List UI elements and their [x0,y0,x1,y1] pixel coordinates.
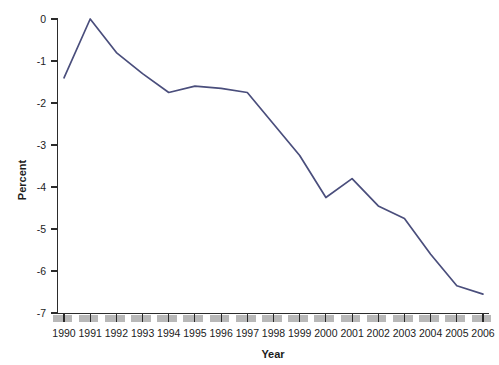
x-axis-block [288,315,308,322]
x-axis-block [419,315,439,322]
y-tick-label: -2 [37,97,46,109]
x-axis-block [236,315,256,322]
y-tick-label: -1 [37,55,46,67]
x-tick-label: 1996 [209,327,233,339]
chart-container: 0 -1 -2 -3 -4 -5 -6 -7 Percent 199019911… [0,0,499,365]
x-axis-block [393,315,413,322]
x-axis-block [157,315,177,322]
y-axis-title: Percent [16,159,28,200]
x-axis-block [367,315,387,322]
x-tick-label: 2001 [340,327,364,339]
x-tick-label: 1992 [105,327,129,339]
y-tick-label: 0 [40,13,46,25]
x-axis-block [53,315,73,322]
x-tick-label: 1998 [262,327,286,339]
x-tick-label: 1991 [79,327,103,339]
y-tick-label: -3 [37,139,46,151]
x-tick-label: 1997 [236,327,260,339]
x-tick-label: 2000 [314,327,338,339]
x-tick-label: 1999 [288,327,312,339]
x-axis-block [183,315,203,322]
x-tick-label: 1994 [157,327,181,339]
x-axis-block [472,315,492,322]
x-tick-label: 1993 [131,327,155,339]
x-tick-label: 2005 [445,327,469,339]
x-axis-block [105,315,125,322]
x-axis-block [131,315,151,322]
x-axis-title: Year [261,348,285,360]
x-axis-blocks [53,315,492,322]
x-tick-label: 2004 [419,327,443,339]
x-axis-block [262,315,282,322]
x-tick-label: 1995 [183,327,207,339]
x-tick-label: 1990 [52,327,76,339]
x-tick-label: 2002 [367,327,391,339]
x-axis-block [210,315,230,322]
x-axis-block [314,315,334,322]
x-tick-label: 2006 [471,327,495,339]
y-tick-label: -4 [37,181,46,193]
y-tick-label: -7 [37,307,46,319]
y-tick-label: -5 [37,223,46,235]
x-axis-block [341,315,361,322]
x-tick-label: 2003 [393,327,417,339]
line-chart: 0 -1 -2 -3 -4 -5 -6 -7 Percent 199019911… [0,0,499,365]
x-axis-tick-labels: 1990199119921993199419951996199719981999… [52,327,495,339]
y-tick-label: -6 [37,265,46,277]
x-axis-block [445,315,465,322]
x-axis-block [79,315,99,322]
